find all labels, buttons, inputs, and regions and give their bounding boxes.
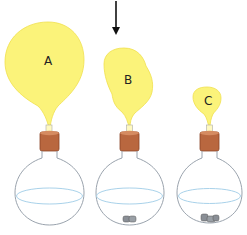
label-b: B — [124, 73, 132, 87]
label-a: A — [44, 54, 53, 68]
down-arrow-icon — [112, 1, 120, 35]
label-c: C — [204, 94, 212, 108]
flask-balloon-diagram: A B C — [0, 0, 247, 235]
flask-b: B — [96, 48, 164, 225]
residue-b — [123, 216, 136, 222]
balloon-a — [5, 22, 84, 128]
balloon-b — [104, 48, 153, 128]
flask-c: C — [177, 87, 242, 223]
residue-c — [201, 214, 219, 222]
flask-a: A — [5, 22, 84, 225]
